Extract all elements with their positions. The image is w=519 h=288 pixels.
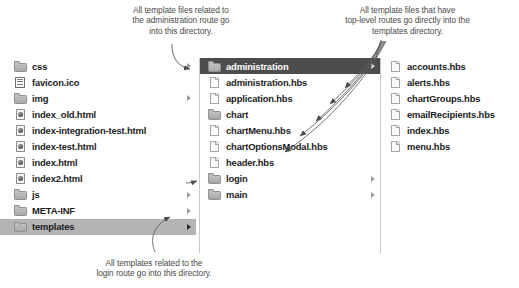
document-icon bbox=[389, 108, 402, 120]
file-row[interactable]: index_old.html bbox=[0, 106, 196, 122]
item-label: index.html bbox=[32, 157, 77, 168]
folder-row[interactable]: main bbox=[200, 187, 380, 203]
file-row[interactable]: index-test.html bbox=[0, 138, 196, 154]
file-row[interactable]: favicon.ico bbox=[0, 74, 196, 90]
folder-icon bbox=[208, 173, 221, 185]
document-icon bbox=[389, 60, 402, 72]
item-label: accounts.hbs bbox=[407, 61, 466, 72]
file-row[interactable]: index-integration-test.html bbox=[0, 122, 196, 138]
folder-icon bbox=[14, 189, 27, 201]
item-label: main bbox=[226, 189, 247, 200]
chevron-right-icon[interactable] bbox=[187, 95, 191, 101]
file-row[interactable]: accounts.hbs bbox=[383, 58, 519, 74]
item-label: favicon.ico bbox=[32, 77, 79, 88]
chevron-right-icon[interactable] bbox=[187, 208, 191, 214]
folder-row[interactable]: META-INF bbox=[0, 203, 196, 219]
item-label: administration bbox=[226, 61, 289, 72]
file-row[interactable]: administration.hbs bbox=[200, 74, 380, 90]
document-icon bbox=[208, 157, 221, 169]
item-label: chartMenu.hbs bbox=[226, 125, 291, 136]
item-label: css bbox=[32, 61, 47, 72]
administration-column: accounts.hbsalerts.hbschartGroups.hbsema… bbox=[383, 58, 519, 253]
item-label: administration.hbs bbox=[226, 77, 307, 88]
item-label: img bbox=[32, 93, 48, 104]
chevron-right-icon[interactable] bbox=[187, 192, 191, 198]
folder-icon bbox=[14, 60, 27, 72]
document-icon bbox=[389, 76, 402, 88]
folder-icon bbox=[14, 205, 27, 217]
file-row[interactable]: alerts.hbs bbox=[383, 74, 519, 90]
annotation-administration: All template files related to the admini… bbox=[82, 5, 280, 36]
item-label: index.hbs bbox=[407, 125, 449, 136]
item-label: js bbox=[32, 189, 40, 200]
item-label: index2.html bbox=[32, 173, 82, 184]
file-row[interactable]: header.hbs bbox=[200, 155, 380, 171]
project-root-column: cssfavicon.icoimgindex_old.htmlindex-int… bbox=[0, 58, 196, 253]
file-row[interactable]: index2.html bbox=[0, 171, 196, 187]
document-icon bbox=[208, 76, 221, 88]
item-label: alerts.hbs bbox=[407, 77, 450, 88]
file-row[interactable]: chartGroups.hbs bbox=[383, 90, 519, 106]
folder-icon bbox=[208, 189, 221, 201]
templates-column: administrationadministration.hbsapplicat… bbox=[199, 58, 381, 253]
folder-icon bbox=[14, 221, 27, 233]
file-row[interactable]: chartOptionsModal.hbs bbox=[200, 138, 380, 154]
html-file-icon bbox=[14, 173, 27, 185]
folder-icon bbox=[14, 92, 27, 104]
item-label: index-integration-test.html bbox=[32, 125, 146, 136]
item-label: application.hbs bbox=[226, 93, 293, 104]
item-label: menu.hbs bbox=[407, 141, 450, 152]
item-label: index_old.html bbox=[32, 109, 96, 120]
finder-annotated-diagram: All template files related to the admini… bbox=[0, 0, 519, 288]
folder-icon bbox=[208, 108, 221, 120]
item-label: templates bbox=[32, 221, 74, 232]
html-file-icon bbox=[14, 141, 27, 153]
folder-row[interactable]: chart bbox=[200, 106, 380, 122]
chevron-right-icon[interactable] bbox=[371, 176, 375, 182]
document-icon bbox=[389, 92, 402, 104]
item-label: index-test.html bbox=[32, 141, 96, 152]
file-row[interactable]: application.hbs bbox=[200, 90, 380, 106]
chevron-right-icon[interactable] bbox=[371, 63, 375, 69]
document-icon bbox=[389, 124, 402, 136]
file-row[interactable]: index.html bbox=[0, 155, 196, 171]
document-icon bbox=[208, 92, 221, 104]
document-lines-icon bbox=[14, 76, 27, 88]
item-label: header.hbs bbox=[226, 157, 274, 168]
folder-icon bbox=[208, 60, 221, 72]
file-row[interactable]: index.hbs bbox=[383, 122, 519, 138]
folder-row[interactable]: templates bbox=[0, 219, 196, 235]
folder-row[interactable]: js bbox=[0, 187, 196, 203]
html-file-icon bbox=[14, 124, 27, 136]
html-file-icon bbox=[14, 108, 27, 120]
chevron-right-icon[interactable] bbox=[187, 224, 191, 230]
document-icon bbox=[389, 141, 402, 153]
item-label: chartOptionsModal.hbs bbox=[226, 141, 328, 152]
file-row[interactable]: menu.hbs bbox=[383, 138, 519, 154]
annotation-login: All templates related to the login route… bbox=[38, 258, 270, 279]
item-label: META-INF bbox=[32, 205, 75, 216]
document-icon bbox=[208, 124, 221, 136]
file-row[interactable]: chartMenu.hbs bbox=[200, 122, 380, 138]
document-icon bbox=[208, 141, 221, 153]
chevron-right-icon[interactable] bbox=[187, 63, 191, 69]
item-label: emailRecipients.hbs bbox=[407, 109, 495, 120]
folder-row[interactable]: css bbox=[0, 58, 196, 74]
chevron-right-icon[interactable] bbox=[371, 192, 375, 198]
folder-row[interactable]: img bbox=[0, 90, 196, 106]
html-file-icon bbox=[14, 157, 27, 169]
item-label: chartGroups.hbs bbox=[407, 93, 480, 104]
folder-row[interactable]: administration bbox=[200, 58, 380, 74]
folder-row[interactable]: login bbox=[200, 171, 380, 187]
item-label: chart bbox=[226, 109, 248, 120]
file-row[interactable]: emailRecipients.hbs bbox=[383, 106, 519, 122]
annotation-top-level-routes: All template files that have top-level r… bbox=[300, 5, 515, 36]
item-label: login bbox=[226, 173, 248, 184]
